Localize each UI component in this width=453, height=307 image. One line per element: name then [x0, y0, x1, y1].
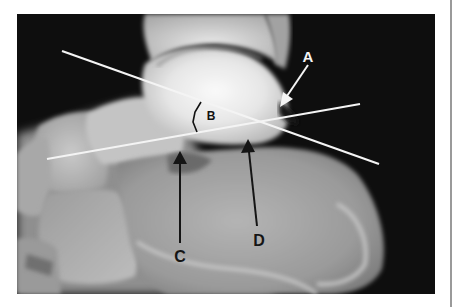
label-d: D	[253, 232, 265, 249]
page-edge-rule	[450, 0, 452, 307]
label-c: C	[174, 248, 186, 265]
label-a: A	[303, 48, 314, 65]
xray-canvas: A B C D	[17, 14, 435, 294]
label-b: B	[207, 109, 216, 123]
xray-image: A B C D	[17, 14, 435, 294]
